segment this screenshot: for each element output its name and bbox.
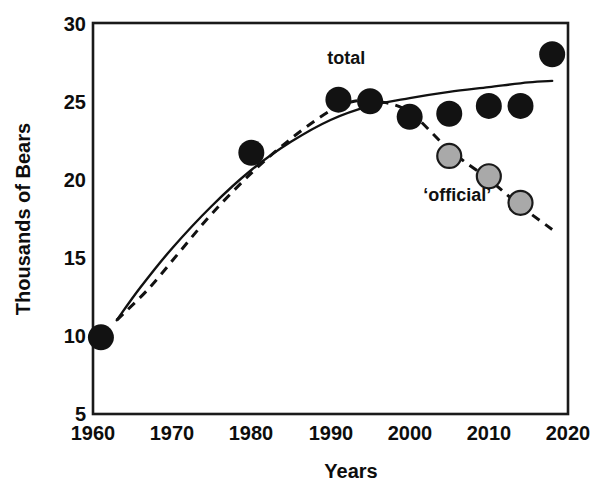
data-point-total bbox=[539, 41, 565, 67]
y-axis-title: Thousands of Bears bbox=[12, 123, 34, 315]
y-tick-label-15: 15 bbox=[64, 247, 86, 269]
x-tick-label-2000: 2000 bbox=[388, 422, 433, 444]
x-axis-title: Years bbox=[324, 460, 377, 482]
data-point-total bbox=[508, 93, 534, 119]
x-tick-label-2010: 2010 bbox=[467, 422, 512, 444]
data-point-total bbox=[476, 93, 502, 119]
y-tick-label-30: 30 bbox=[64, 13, 86, 35]
data-point-official bbox=[509, 191, 533, 215]
annotation-official: ‘official’ bbox=[423, 185, 491, 205]
plot-frame bbox=[93, 23, 568, 414]
y-tick-label-25: 25 bbox=[64, 91, 86, 113]
x-tick-label-1990: 1990 bbox=[309, 422, 354, 444]
data-point-official bbox=[437, 144, 461, 168]
y-tick-label-10: 10 bbox=[64, 325, 86, 347]
data-point-total bbox=[436, 101, 462, 127]
annotation-total: total bbox=[327, 48, 365, 68]
data-point-total bbox=[325, 87, 351, 113]
x-tick-label-2020: 2020 bbox=[546, 422, 591, 444]
y-axis-ticks: 30 25 20 15 10 5 bbox=[64, 13, 86, 425]
x-tick-label-1980: 1980 bbox=[229, 422, 274, 444]
data-point-total bbox=[397, 104, 423, 130]
chart-canvas: 30 25 20 15 10 5 1960 1970 1980 1990 200… bbox=[0, 0, 613, 498]
data-point-total bbox=[357, 88, 383, 114]
x-tick-label-1970: 1970 bbox=[150, 422, 195, 444]
bear-population-chart-figure: 30 25 20 15 10 5 1960 1970 1980 1990 200… bbox=[0, 0, 613, 498]
official-trend-line bbox=[117, 100, 552, 320]
x-axis-ticks: 1960 1970 1980 1990 2000 2010 2020 bbox=[71, 422, 591, 444]
y-tick-label-20: 20 bbox=[64, 169, 86, 191]
x-tick-label-1960: 1960 bbox=[71, 422, 116, 444]
data-point-total bbox=[88, 324, 114, 350]
data-point-total bbox=[238, 140, 264, 166]
